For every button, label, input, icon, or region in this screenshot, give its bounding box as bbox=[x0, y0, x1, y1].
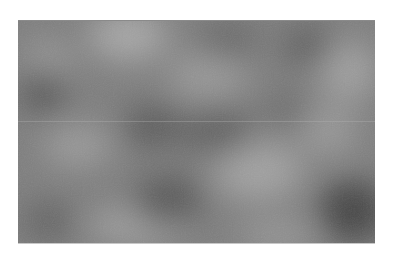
cloud-noise-image bbox=[18, 20, 375, 244]
horizontal-seam-line bbox=[18, 121, 375, 122]
cloud-texture bbox=[18, 21, 375, 243]
